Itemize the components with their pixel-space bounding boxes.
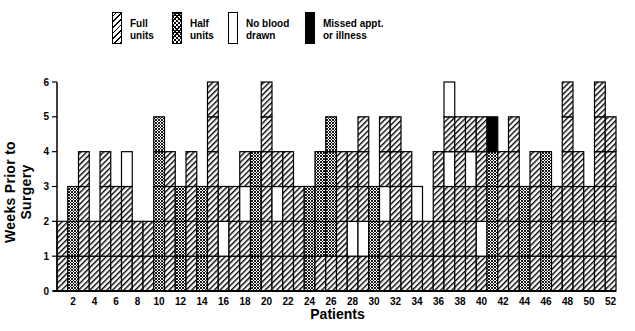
patient-bar-37 (444, 82, 455, 291)
patient-bar-40 (476, 117, 487, 291)
patient-bar-28 (347, 152, 358, 291)
half-units-segment (175, 256, 186, 291)
no-blood-segment (347, 221, 358, 256)
patient-bar-30 (369, 187, 380, 292)
half-units-segment (251, 221, 262, 256)
patient-bar-19 (251, 152, 262, 291)
half-units-segment (487, 152, 498, 187)
full-units-segment (530, 221, 541, 256)
full-units-segment (261, 221, 272, 256)
full-units-segment (294, 187, 305, 222)
full-units-segment (57, 221, 68, 256)
full-units-segment (100, 152, 111, 187)
full-units-segment (498, 187, 509, 222)
patient-bar-27 (337, 152, 348, 291)
full-units-segment (605, 152, 616, 187)
full-units-segment (455, 256, 466, 291)
half-units-segment (369, 187, 380, 222)
full-units-segment (466, 221, 477, 256)
patient-bar-8 (132, 221, 143, 291)
full-units-segment (208, 221, 219, 256)
full-units-segment (455, 187, 466, 222)
full-units-segment (476, 152, 487, 187)
full-units-segment (509, 256, 520, 291)
full-units-segment (294, 221, 305, 256)
patient-bar-47 (552, 187, 563, 292)
y-tick-label: 4 (43, 146, 49, 157)
no-blood-segment (476, 221, 487, 256)
full-units-segment (208, 256, 219, 291)
patient-bar-2 (68, 187, 79, 292)
half-units-segment (369, 256, 380, 291)
full-units-segment (562, 187, 573, 222)
full-units-segment (390, 187, 401, 222)
patient-bar-11 (165, 152, 176, 291)
full-units-segment (89, 221, 100, 256)
full-units-segment (444, 221, 455, 256)
bar-group (57, 82, 616, 291)
full-units-segment (573, 256, 584, 291)
full-units-segment (186, 256, 197, 291)
no-blood-segment (412, 187, 423, 222)
full-units-segment (455, 152, 466, 187)
patient-bar-33 (401, 152, 412, 291)
patient-bar-12 (175, 187, 186, 292)
full-units-segment (433, 221, 444, 256)
patient-bar-16 (218, 187, 229, 292)
full-units-segment (444, 117, 455, 152)
patient-bar-21 (272, 152, 283, 291)
full-units-segment (595, 187, 606, 222)
half-units-segment (541, 187, 552, 222)
full-units-segment (584, 221, 595, 256)
full-units-segment (229, 221, 240, 256)
x-axis-label: Patients (0, 306, 635, 322)
full-units-segment (552, 187, 563, 222)
full-units-segment (498, 256, 509, 291)
full-units-segment (433, 152, 444, 187)
half-units-segment (315, 187, 326, 222)
full-units-segment (347, 152, 358, 187)
full-units-segment (401, 187, 412, 222)
full-units-segment (132, 221, 143, 256)
full-units-segment (57, 256, 68, 291)
half-units-segment (304, 221, 315, 256)
full-units-segment (79, 256, 90, 291)
half-units-segment (519, 187, 530, 222)
patient-bar-38 (455, 117, 466, 291)
full-units-segment (100, 221, 111, 256)
no-blood-segment (380, 187, 391, 222)
full-units-segment (337, 187, 348, 222)
full-units-segment (390, 152, 401, 187)
full-units-segment (573, 152, 584, 187)
full-units-segment (380, 221, 391, 256)
full-units-segment (111, 187, 122, 222)
patient-bar-14 (197, 187, 208, 292)
full-units-segment (218, 187, 229, 222)
full-units-segment (272, 256, 283, 291)
full-units-segment (347, 187, 358, 222)
full-units-segment (165, 187, 176, 222)
patient-bar-42 (498, 152, 509, 291)
full-units-segment (272, 152, 283, 187)
full-units-segment (261, 152, 272, 187)
full-units-segment (573, 221, 584, 256)
full-units-segment (122, 256, 133, 291)
full-units-segment (143, 256, 154, 291)
full-units-segment (208, 152, 219, 187)
y-tick-label: 6 (43, 77, 49, 88)
full-units-segment (186, 187, 197, 222)
full-units-segment (132, 256, 143, 291)
full-units-segment (390, 256, 401, 291)
half-units-segment (326, 187, 337, 222)
full-units-segment (584, 187, 595, 222)
full-units-segment (229, 187, 240, 222)
full-units-segment (530, 187, 541, 222)
patient-bar-32 (390, 117, 401, 291)
patient-bar-26 (326, 117, 337, 291)
full-units-segment (358, 117, 369, 152)
patient-bar-9 (143, 221, 154, 291)
full-units-segment (401, 256, 412, 291)
full-units-segment (358, 256, 369, 291)
y-tick-label: 1 (43, 251, 49, 262)
full-units-segment (401, 221, 412, 256)
